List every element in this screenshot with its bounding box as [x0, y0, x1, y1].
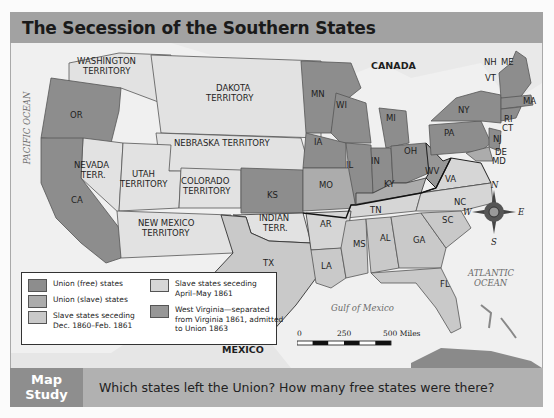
label-ky: KY — [384, 179, 394, 189]
label-new-mexico: NEW MEXICO — [138, 218, 195, 228]
scale-graphic — [297, 340, 397, 348]
label-canada: CANADA — [371, 61, 416, 71]
legend-item-union-free: Union (free) states — [28, 279, 123, 292]
legend-item-seceding-late: Slave states seceding April–May 1861 — [150, 279, 257, 298]
label-nh: NH — [484, 57, 497, 67]
label-ny: NY — [458, 105, 470, 115]
label-oh: OH — [404, 146, 417, 156]
label-nc: NC — [454, 197, 466, 207]
label-sc: SC — [442, 215, 453, 225]
label-in: IN — [371, 156, 380, 166]
label-utah-2: TERRITORY — [120, 179, 167, 189]
label-dakota: DAKOTA — [216, 83, 250, 93]
compass-n: N — [491, 180, 498, 190]
label-utah: UTAH — [132, 169, 155, 179]
label-va: VA — [445, 174, 456, 184]
legend-swatch — [28, 311, 47, 324]
label-pacific-ocean: PACIFIC OCEAN — [22, 92, 32, 165]
label-indian-2: TERR. — [263, 223, 288, 233]
map-study-question: Which states left the Union? How many fr… — [99, 380, 494, 395]
label-wv: WV — [425, 166, 439, 176]
label-nevada-2: TERR. — [81, 170, 106, 180]
legend-swatch — [150, 305, 169, 318]
compass-s: S — [491, 237, 497, 247]
label-pa: PA — [444, 128, 454, 138]
label-ms: MS — [353, 239, 366, 249]
label-washington: WASHINGTON — [77, 56, 136, 66]
legend-swatch — [150, 279, 169, 292]
label-nebraska: NEBRASKA TERRITORY — [174, 138, 270, 148]
legend-swatch — [28, 295, 47, 308]
label-mo: MO — [319, 180, 333, 190]
label-ga: GA — [413, 235, 425, 245]
label-washington-2: TERRITORY — [83, 66, 130, 76]
label-me: ME — [501, 57, 514, 67]
label-ocean: OCEAN — [474, 278, 507, 288]
legend: Union (free) states Union (slave) states… — [21, 272, 277, 345]
page-title: The Secession of the Southern States — [22, 18, 376, 38]
label-or: OR — [70, 110, 83, 120]
label-il: IL — [346, 160, 353, 170]
scale-500: 500 Miles — [383, 329, 420, 338]
map-study-badge: Map Study — [10, 368, 83, 407]
label-wi: WI — [336, 100, 347, 110]
label-mi: MI — [386, 113, 396, 123]
compass-e: E — [518, 207, 524, 217]
legend-item-union-slave: Union (slave) states — [28, 295, 128, 308]
label-new-mexico-2: TERRITORY — [142, 228, 189, 238]
label-indian: INDIAN — [259, 213, 289, 223]
label-tx: TX — [263, 258, 274, 268]
legend-item-west-virginia: West Virginia—separated from Virginia 18… — [150, 305, 283, 334]
label-colorado: COLORADO — [181, 176, 229, 186]
label-nj: NJ — [493, 134, 502, 144]
compass-w: W — [463, 207, 472, 217]
label-la: LA — [321, 261, 332, 271]
label-ar: AR — [320, 219, 332, 229]
legend-item-seceding-early: Slave states seceding Dec. 1860–Feb. 186… — [28, 311, 135, 330]
label-al: AL — [380, 233, 391, 243]
label-ia: IA — [314, 137, 322, 147]
label-atlantic: ATLANTIC — [468, 268, 514, 278]
label-mn: MN — [311, 89, 325, 99]
label-ma: MA — [523, 96, 536, 106]
legend-swatch — [28, 279, 47, 292]
label-ks: KS — [267, 190, 278, 200]
label-vt: VT — [485, 73, 496, 83]
label-ri: RI — [504, 114, 512, 124]
label-colorado-2: TERRITORY — [183, 186, 230, 196]
label-ca: CA — [71, 195, 83, 205]
label-mexico: MEXICO — [222, 345, 264, 355]
title-bar: The Secession of the Southern States — [10, 12, 543, 43]
label-gulf-of-mexico: Gulf of Mexico — [331, 303, 394, 313]
label-md: MD — [492, 156, 506, 166]
scale-250: 250 — [337, 329, 351, 338]
label-ct: CT — [502, 123, 513, 133]
label-tn: TN — [370, 205, 382, 215]
label-dakota-2: TERRITORY — [206, 93, 253, 103]
scale-0: 0 — [297, 329, 302, 338]
label-fl: FL — [440, 279, 450, 289]
label-nevada: NEVADA — [74, 160, 109, 170]
